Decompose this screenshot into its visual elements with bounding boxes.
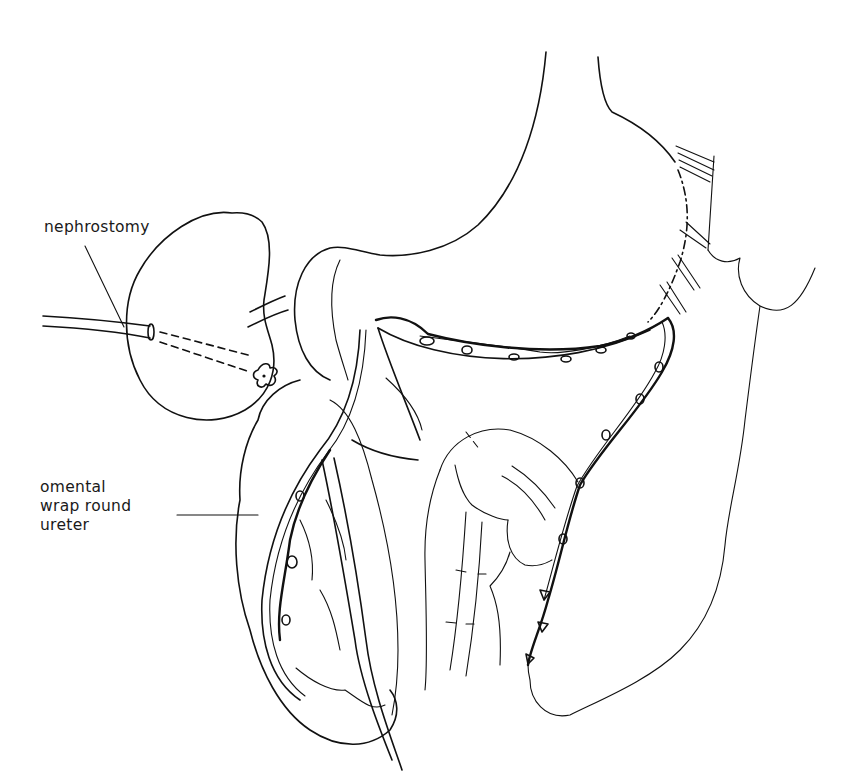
surgical-illustration: nephrostomy omental wrap round ureter [0, 0, 863, 782]
nephrostomy-label: nephrostomy [44, 218, 150, 237]
omentum-outline [236, 260, 422, 744]
omental-wrap-label-line1: omental [40, 478, 131, 497]
suture-line-right [526, 318, 674, 665]
kidney-outline [127, 212, 274, 420]
omental-flap-right [528, 306, 760, 716]
stomach-outline [295, 52, 815, 380]
omental-wrap-label: omental wrap round ureter [40, 478, 131, 535]
nephrostomy-leader-line [85, 246, 124, 327]
suture-knots-right [526, 362, 663, 664]
omental-wrap-label-line2: wrap round [40, 497, 131, 516]
suture-line-top [376, 317, 668, 362]
illustration-canvas [0, 0, 863, 782]
omental-wrap-label-line3: ureter [40, 516, 131, 535]
nephrostomy-tube [43, 316, 277, 387]
renal-band-upper [250, 296, 285, 312]
renal-band-lower [248, 310, 288, 327]
